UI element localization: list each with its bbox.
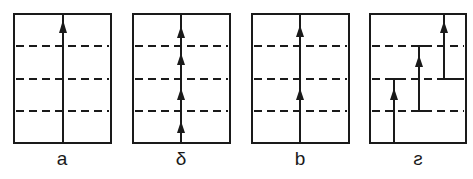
arrow-up-icon [59, 20, 67, 33]
panel-s-label: ƨ [398, 148, 438, 170]
arrow-up-icon [177, 121, 185, 133]
panel-a-label: a [42, 148, 82, 170]
panel-a [14, 14, 111, 143]
arrow-up-icon [177, 53, 185, 65]
panel-b [252, 14, 349, 143]
panel-delta [133, 14, 230, 143]
arrow-up-icon [296, 25, 304, 37]
arrow-up-icon [390, 88, 398, 100]
arrow-up-icon [177, 88, 185, 100]
panel-s [370, 14, 466, 143]
arrow-up-icon [177, 26, 185, 38]
arrow-up-icon [440, 21, 448, 33]
panel-delta-label: δ [161, 148, 201, 170]
arrow-up-icon [415, 55, 423, 67]
arrow-up-icon [296, 88, 304, 100]
panel-b-label: b [280, 148, 320, 170]
